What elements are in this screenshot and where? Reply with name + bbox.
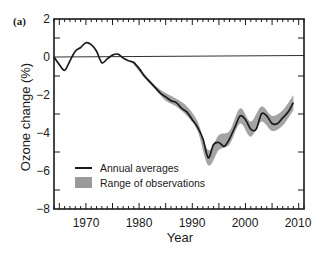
y-tick-label: 0 [43,50,50,64]
x-tick-label: 2000 [232,216,259,230]
panel-label: (a) [13,15,26,27]
y-tick-label: −2 [36,88,50,102]
y-tick-label: −6 [36,164,50,178]
x-tick-label: 1980 [126,216,153,230]
y-tick-label: 2 [43,12,50,26]
x-tick-label: 1970 [73,216,100,230]
legend-item-range-of-observations: Range of observations [75,175,205,190]
x-tick-label: 2010 [285,216,312,230]
y-axis-label: Ozone change (%) [18,63,33,171]
legend-label: Annual averages [100,162,179,174]
y-tick-label: −8 [36,202,50,216]
legend-item-annual-averages: Annual averages [75,160,205,175]
range-of-observations-band [134,61,294,166]
x-tick-label: 1990 [179,216,206,230]
line-swatch-icon [75,167,92,169]
zero-baseline [54,56,304,58]
x-axis-label: Year [167,230,193,245]
legend: Annual averages Range of observations [75,160,205,190]
y-tick-label: −4 [36,126,50,140]
band-swatch-icon [75,177,92,188]
legend-label: Range of observations [100,177,205,189]
